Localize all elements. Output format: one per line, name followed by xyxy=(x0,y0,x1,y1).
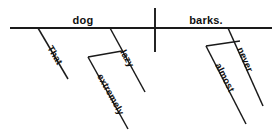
modifier-label-almost: almost xyxy=(213,61,237,94)
subject-label: dog xyxy=(73,14,94,26)
modifier-connector-extremely xyxy=(88,51,122,57)
modifier-label-never: never xyxy=(235,45,256,73)
predicate-label: barks. xyxy=(189,14,223,26)
modifier-label-that: That xyxy=(45,43,65,67)
sentence-diagram: dog barks. That lazy extremely never alm… xyxy=(0,0,280,133)
sentence-diagram-canvas: dog barks. That lazy extremely never alm… xyxy=(0,0,280,133)
modifier-label-extremely: extremely xyxy=(95,72,127,117)
